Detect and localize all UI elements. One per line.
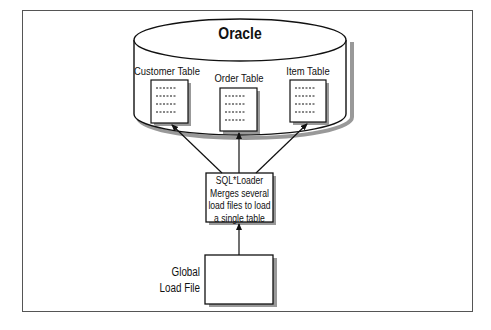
sql-loader-line-2: Merges several — [204, 187, 275, 200]
sql-loader-line-3: load files to load — [204, 199, 275, 212]
global-load-file-box — [205, 255, 277, 307]
item-table-label: Item Table — [277, 65, 339, 77]
order-table-label: Order Table — [205, 72, 272, 84]
sql-loader-line-1: SQL*Loader — [204, 174, 275, 187]
global-load-file-line-2: Load File — [143, 280, 200, 296]
sql-loader-line-4: a single table — [204, 212, 275, 225]
customer-table-label: Customer Table — [130, 65, 204, 77]
sql-loader-label: SQL*Loader Merges several load files to … — [204, 174, 275, 224]
oracle-label: Oracle — [214, 24, 266, 44]
item-table-doc-icon — [290, 80, 329, 125]
global-load-file-line-1: Global — [143, 264, 200, 280]
order-table-doc-icon — [220, 88, 260, 134]
customer-table-doc-icon — [151, 80, 191, 126]
diagram-canvas — [0, 0, 491, 330]
global-load-file-label: Global Load File — [143, 264, 200, 296]
